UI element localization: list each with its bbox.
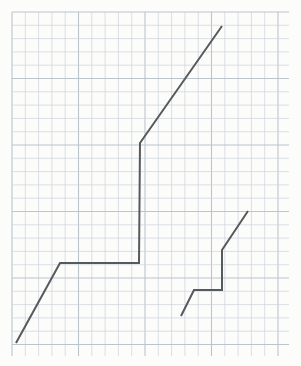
graph-paper-grid — [0, 0, 301, 366]
diagram-page: Graph paper polyline diagram — [0, 0, 301, 366]
